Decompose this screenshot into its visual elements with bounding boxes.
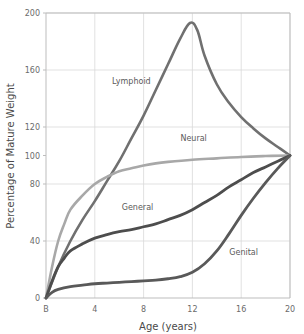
y-tick-label: 120: [25, 123, 40, 132]
x-tick-label: 12: [187, 305, 197, 314]
x-tick-label: B: [43, 305, 49, 314]
x-tick-label: 8: [141, 305, 146, 314]
x-tick-label: 4: [92, 305, 97, 314]
curve-label-general: General: [122, 203, 154, 212]
x-axis-tick-labels: B48121620: [43, 305, 295, 314]
y-tick-label: 80: [30, 180, 40, 189]
chart-canvas: 04080100120160200 B48121620 LymphoidNeur…: [0, 0, 304, 334]
curve-genital: [46, 156, 290, 299]
y-tick-label: 0: [35, 294, 40, 303]
curve-label-neural: Neural: [180, 134, 206, 143]
x-tick-label: 20: [285, 305, 295, 314]
y-tick-label: 160: [25, 66, 40, 75]
curve-general: [46, 156, 290, 299]
y-tick-label: 100: [25, 152, 40, 161]
y-axis-tick-labels: 04080100120160200: [25, 9, 46, 303]
y-tick-label: 200: [25, 9, 40, 18]
curve-neural: [46, 156, 290, 299]
curve-label-lymphoid: Lymphoid: [112, 77, 151, 86]
growth-curves-chart: 04080100120160200 B48121620 LymphoidNeur…: [0, 0, 304, 334]
curve-label-genital: Genital: [229, 248, 258, 257]
y-tick-label: 40: [30, 237, 40, 246]
x-axis-title: Age (years): [139, 321, 197, 332]
x-tick-label: 16: [236, 305, 246, 314]
y-axis-title: Percentage of Mature Weight: [5, 83, 16, 228]
